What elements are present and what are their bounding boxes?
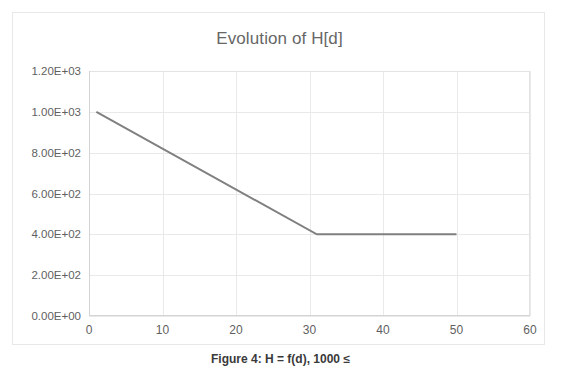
y-axis-tick-label: 1.00E+03: [31, 106, 81, 118]
chart-title: Evolution of H[d]: [13, 29, 546, 49]
x-axis-tick-label: 20: [229, 323, 242, 337]
y-axis-tick-labels: 0.00E+002.00E+024.00E+026.00E+028.00E+02…: [13, 71, 81, 316]
gridline-vertical: [530, 71, 531, 316]
y-axis-tick-label: 1.20E+03: [31, 65, 81, 77]
y-axis-tick-label: 6.00E+02: [31, 188, 81, 200]
gridline-horizontal: [89, 316, 530, 317]
y-axis-tick-label: 2.00E+02: [31, 269, 81, 281]
y-axis-tick-label: 0.00E+00: [31, 310, 81, 322]
data-series-line: [89, 71, 530, 316]
x-axis-tick-label: 0: [86, 323, 93, 337]
figure-caption: Figure 4: H = f(d), 1000 ≤: [0, 352, 561, 366]
x-axis-tick-label: 30: [303, 323, 316, 337]
plot-area[interactable]: [89, 71, 530, 316]
x-axis-tick-label: 50: [450, 323, 463, 337]
x-axis-tick-label: 10: [156, 323, 169, 337]
chart-container[interactable]: Evolution of H[d] 0.00E+002.00E+024.00E+…: [12, 12, 545, 345]
series-h-d-polyline: [96, 112, 456, 235]
x-axis-tick-label: 40: [376, 323, 389, 337]
y-axis-tick-label: 4.00E+02: [31, 228, 81, 240]
y-axis-tick-label: 8.00E+02: [31, 147, 81, 159]
x-axis-tick-label: 60: [523, 323, 536, 337]
x-axis-tick-labels: 0102030405060: [89, 323, 530, 343]
